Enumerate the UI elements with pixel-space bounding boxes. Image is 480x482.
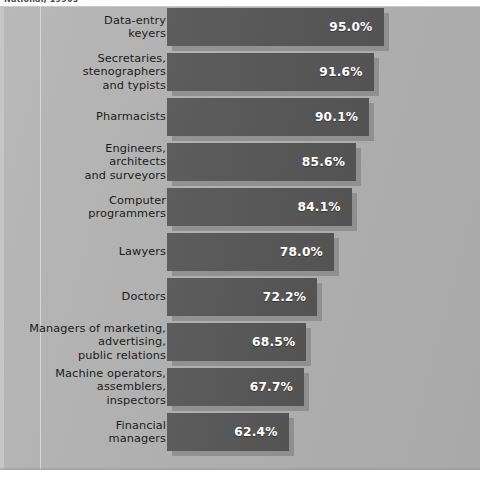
bar-category-label: Engineers, architects and surveyors: [0, 142, 166, 182]
bar-row: Financial managers62.4%: [0, 413, 480, 451]
bar-value-label: 90.1%: [315, 110, 369, 124]
bar-wrapper: 84.1%: [167, 188, 352, 226]
bar-wrapper: 78.0%: [167, 233, 334, 271]
bar-wrapper: 91.6%: [167, 53, 374, 91]
bar-wrapper: 90.1%: [167, 98, 369, 136]
bar-row: Doctors72.2%: [0, 278, 480, 316]
bar-wrapper: 62.4%: [167, 413, 289, 451]
bottom-margin: [0, 470, 480, 482]
bar-category-label: Secretaries, stenographers and typists: [0, 52, 166, 92]
bar-category-label: Lawyers: [0, 245, 166, 258]
chart-screenshot: National, 1990s Data-entry keyers95.0%Se…: [0, 0, 480, 482]
bar[interactable]: 72.2%: [167, 278, 317, 316]
bar[interactable]: 84.1%: [167, 188, 352, 226]
bar-wrapper: 67.7%: [167, 368, 304, 406]
bar-row: Machine operators, assemblers, inspector…: [0, 368, 480, 406]
bar-category-label: Machine operators, assemblers, inspector…: [0, 367, 166, 407]
bar[interactable]: 95.0%: [167, 8, 384, 46]
bar-category-label: Pharmacists: [0, 110, 166, 123]
bar-row: Computer programmers84.1%: [0, 188, 480, 226]
bar-row: Engineers, architects and surveyors85.6%: [0, 143, 480, 181]
bar[interactable]: 67.7%: [167, 368, 304, 406]
bar-row: Secretaries, stenographers and typists91…: [0, 53, 480, 91]
bar[interactable]: 85.6%: [167, 143, 356, 181]
bar[interactable]: 78.0%: [167, 233, 334, 271]
bar-row: Managers of marketing, advertising, publ…: [0, 323, 480, 361]
bar-value-label: 85.6%: [302, 155, 356, 169]
bar-value-label: 95.0%: [329, 20, 383, 34]
bar-wrapper: 95.0%: [167, 8, 384, 46]
bar-value-label: 84.1%: [297, 200, 351, 214]
bar-category-label: Doctors: [0, 290, 166, 303]
bar-category-label: Managers of marketing, advertising, publ…: [0, 322, 166, 362]
bar-value-label: 68.5%: [252, 335, 306, 349]
bar-category-label: Computer programmers: [0, 194, 166, 221]
bar-category-label: Financial managers: [0, 419, 166, 446]
bar-category-label: Data-entry keyers: [0, 14, 166, 41]
bar-row: Data-entry keyers95.0%: [0, 8, 480, 46]
top-source-fragment: National, 1990s: [4, 0, 124, 4]
bar-row: Pharmacists90.1%: [0, 98, 480, 136]
bar-wrapper: 85.6%: [167, 143, 356, 181]
panel-top-rule: [0, 6, 480, 7]
bar[interactable]: 90.1%: [167, 98, 369, 136]
bar-value-label: 62.4%: [234, 425, 288, 439]
bar-row: Lawyers78.0%: [0, 233, 480, 271]
bar[interactable]: 91.6%: [167, 53, 374, 91]
bar-rows: Data-entry keyers95.0%Secretaries, steno…: [0, 8, 480, 458]
bar-wrapper: 72.2%: [167, 278, 317, 316]
bar-value-label: 72.2%: [263, 290, 317, 304]
bar-wrapper: 68.5%: [167, 323, 306, 361]
bar-value-label: 91.6%: [319, 65, 373, 79]
bar-value-label: 78.0%: [280, 245, 334, 259]
bar[interactable]: 68.5%: [167, 323, 306, 361]
bar[interactable]: 62.4%: [167, 413, 289, 451]
bar-value-label: 67.7%: [250, 380, 304, 394]
